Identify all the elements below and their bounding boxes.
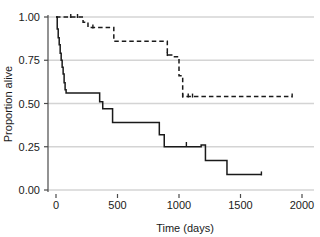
x-tick-label-0: 0 — [53, 199, 59, 211]
x-tick-labels: 0500100015002000 — [53, 199, 314, 211]
curve-solid-curve — [56, 17, 261, 174]
x-tick-label-4: 2000 — [290, 199, 314, 211]
y-tick-label-0: 0.00 — [19, 184, 40, 196]
kaplan-meier-plot: 0.000.250.500.751.00 0500100015002000 Ti… — [0, 0, 320, 237]
y-tick-label-1: 0.25 — [19, 141, 40, 153]
y-tick-label-3: 0.75 — [19, 54, 40, 66]
y-axis-title: Proportion alive — [2, 66, 14, 142]
survival-chart-figure: 0.000.250.500.751.00 0500100015002000 Ti… — [0, 0, 320, 237]
x-tick-label-2: 1000 — [167, 199, 191, 211]
y-tick-label-2: 0.50 — [19, 98, 40, 110]
gridlines — [48, 17, 314, 190]
y-tick-label-4: 1.00 — [19, 11, 40, 23]
x-tick-label-1: 500 — [108, 199, 126, 211]
curve-dashed-curve — [56, 17, 292, 97]
data-curves — [56, 17, 292, 174]
x-axis-title: Time (days) — [156, 222, 214, 234]
tick-marks — [44, 17, 302, 198]
censor-marks — [71, 14, 292, 175]
x-tick-label-3: 1500 — [228, 199, 252, 211]
y-tick-labels: 0.000.250.500.751.00 — [19, 11, 40, 196]
